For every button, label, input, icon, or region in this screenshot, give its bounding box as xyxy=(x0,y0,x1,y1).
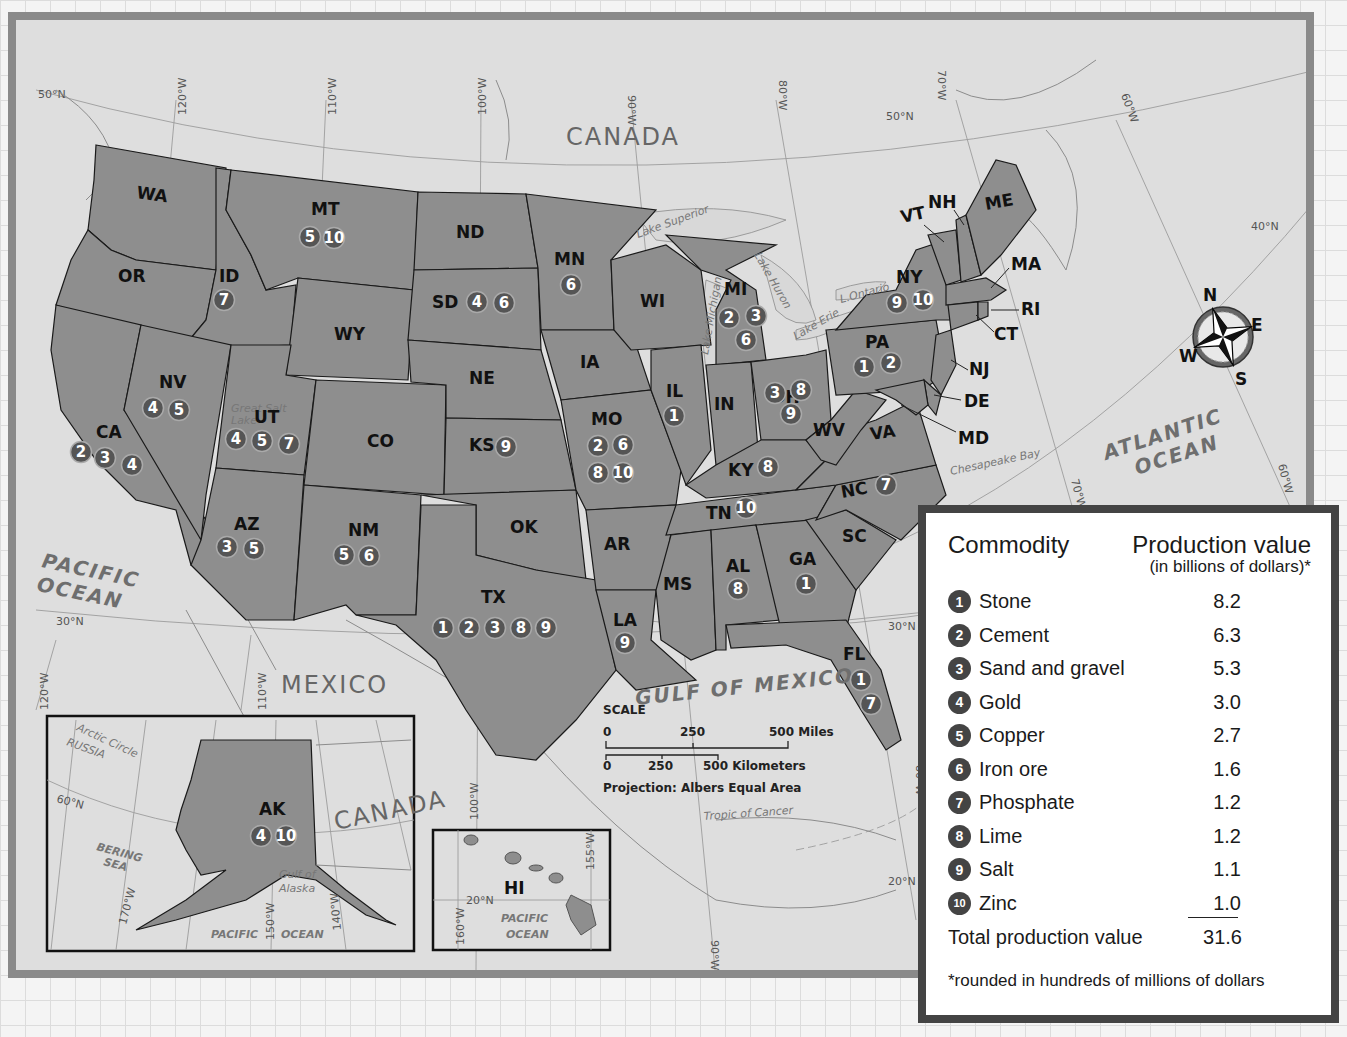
svg-text:Alaska: Alaska xyxy=(278,882,315,895)
commodity-number-badge: 5 xyxy=(948,724,971,747)
svg-text:0: 0 xyxy=(603,759,611,773)
svg-text:NE: NE xyxy=(469,368,495,388)
svg-text:2: 2 xyxy=(464,619,474,637)
state-RI[interactable] xyxy=(978,302,988,320)
svg-text:DE: DE xyxy=(964,391,990,411)
svg-text:W: W xyxy=(1179,346,1198,366)
svg-text:1: 1 xyxy=(859,358,869,376)
label-chesapeake-bay: Chesapeake Bay xyxy=(949,446,1042,478)
sum-rule xyxy=(1188,917,1238,918)
svg-text:8: 8 xyxy=(593,464,603,482)
commodity-number-badge: 2 xyxy=(948,624,971,647)
legend-table: Commodity Production value (in billions … xyxy=(918,505,1339,1023)
legend-row: 9Salt1.1 xyxy=(948,853,1311,887)
svg-text:90°W: 90°W xyxy=(708,940,721,970)
svg-text:WY: WY xyxy=(334,324,366,344)
svg-text:30°N: 30°N xyxy=(56,615,84,628)
svg-text:NH: NH xyxy=(928,192,956,212)
legend-row: 4Gold3.0 xyxy=(948,686,1311,720)
svg-text:5: 5 xyxy=(249,540,259,558)
svg-text:6: 6 xyxy=(741,331,751,349)
svg-text:ID: ID xyxy=(219,266,239,286)
legend-rows: 1Stone8.2 2Cement6.3 3Sand and gravel5.3… xyxy=(948,585,1311,920)
svg-text:MI: MI xyxy=(724,279,747,299)
svg-text:10: 10 xyxy=(324,229,345,247)
svg-text:40°N: 40°N xyxy=(1251,220,1279,233)
svg-text:2: 2 xyxy=(593,437,603,455)
svg-text:CA: CA xyxy=(96,422,122,442)
svg-text:TX: TX xyxy=(481,587,506,607)
svg-text:60°W: 60°W xyxy=(1275,462,1295,495)
legend-row: 7Phosphate1.2 xyxy=(948,786,1311,820)
commodity-number-badge: 9 xyxy=(948,858,971,881)
svg-text:6: 6 xyxy=(364,547,374,565)
svg-text:PACIFIC: PACIFIC xyxy=(211,928,258,941)
svg-text:NM: NM xyxy=(348,520,379,540)
label-atlantic-ocean: ATLANTIC OCEAN xyxy=(1098,404,1233,489)
svg-text:250: 250 xyxy=(680,725,705,739)
svg-text:2: 2 xyxy=(76,443,86,461)
svg-text:120°W: 120°W xyxy=(176,78,189,115)
svg-text:TN: TN xyxy=(706,503,732,523)
svg-text:E: E xyxy=(1251,315,1263,335)
svg-text:160°W: 160°W xyxy=(454,908,467,945)
legend-row: 8Lime1.2 xyxy=(948,820,1311,854)
hawaii-inset: HI 20°N PACIFIC OCEAN 160°W 155°W xyxy=(433,830,610,950)
svg-text:1: 1 xyxy=(801,575,811,593)
svg-text:6: 6 xyxy=(566,276,576,294)
svg-text:7: 7 xyxy=(881,476,891,494)
state-NM[interactable] xyxy=(294,485,421,620)
commodity-number-badge: 10 xyxy=(948,892,971,915)
svg-text:1: 1 xyxy=(438,619,448,637)
svg-text:OCEAN: OCEAN xyxy=(506,928,549,941)
svg-text:7: 7 xyxy=(284,435,294,453)
state-CT[interactable] xyxy=(948,302,978,330)
svg-text:8: 8 xyxy=(763,458,773,476)
svg-text:NY: NY xyxy=(896,267,923,287)
svg-text:5: 5 xyxy=(339,546,349,564)
svg-text:250: 250 xyxy=(648,759,673,773)
svg-text:ND: ND xyxy=(456,222,484,242)
svg-text:Gulf of: Gulf of xyxy=(279,868,318,881)
svg-text:4: 4 xyxy=(472,293,482,311)
legend-total-row: Total production value 31.6 xyxy=(948,926,1311,949)
commodity-number-badge: 3 xyxy=(948,657,971,680)
svg-text:5: 5 xyxy=(174,401,184,419)
svg-text:MS: MS xyxy=(663,574,692,594)
svg-text:Projection: Albers Equal Area: Projection: Albers Equal Area xyxy=(603,781,801,795)
svg-text:WV: WV xyxy=(813,420,846,440)
svg-text:4: 4 xyxy=(127,456,137,474)
svg-text:AZ: AZ xyxy=(234,514,259,534)
svg-text:HI: HI xyxy=(504,878,525,898)
commodity-number-badge: 6 xyxy=(948,758,971,781)
svg-text:6: 6 xyxy=(499,294,509,312)
commodity-number-badge: 8 xyxy=(948,825,971,848)
svg-text:155°W: 155°W xyxy=(584,833,597,870)
commodity-number-badge: 4 xyxy=(948,691,971,714)
svg-text:MA: MA xyxy=(1011,254,1042,274)
svg-text:3: 3 xyxy=(100,449,110,467)
svg-text:50°N: 50°N xyxy=(886,110,914,123)
compass-rose: N E S W xyxy=(1179,285,1263,389)
svg-text:NV: NV xyxy=(159,372,187,392)
svg-text:3: 3 xyxy=(222,538,232,556)
svg-text:7: 7 xyxy=(219,291,229,309)
svg-text:CT: CT xyxy=(994,324,1018,344)
label-mexico: MEXICO xyxy=(281,671,388,699)
legend-col-value: Production value xyxy=(1132,531,1311,559)
svg-text:9: 9 xyxy=(786,405,796,423)
svg-text:9: 9 xyxy=(620,634,630,652)
svg-text:500 Miles: 500 Miles xyxy=(769,725,834,739)
svg-text:PACIFIC: PACIFIC xyxy=(501,912,548,925)
svg-text:SCALE: SCALE xyxy=(603,703,646,717)
svg-text:WI: WI xyxy=(640,291,665,311)
svg-text:80°W: 80°W xyxy=(776,80,789,110)
legend-row: 3Sand and gravel5.3 xyxy=(948,652,1311,686)
svg-text:60°W: 60°W xyxy=(1118,92,1141,125)
svg-text:SC: SC xyxy=(842,526,867,546)
svg-text:10: 10 xyxy=(613,464,634,482)
svg-text:4: 4 xyxy=(256,827,266,845)
label-tropic-of-cancer: Tropic of Cancer xyxy=(703,804,795,823)
svg-text:IA: IA xyxy=(580,352,600,372)
svg-text:100°W: 100°W xyxy=(468,783,481,820)
